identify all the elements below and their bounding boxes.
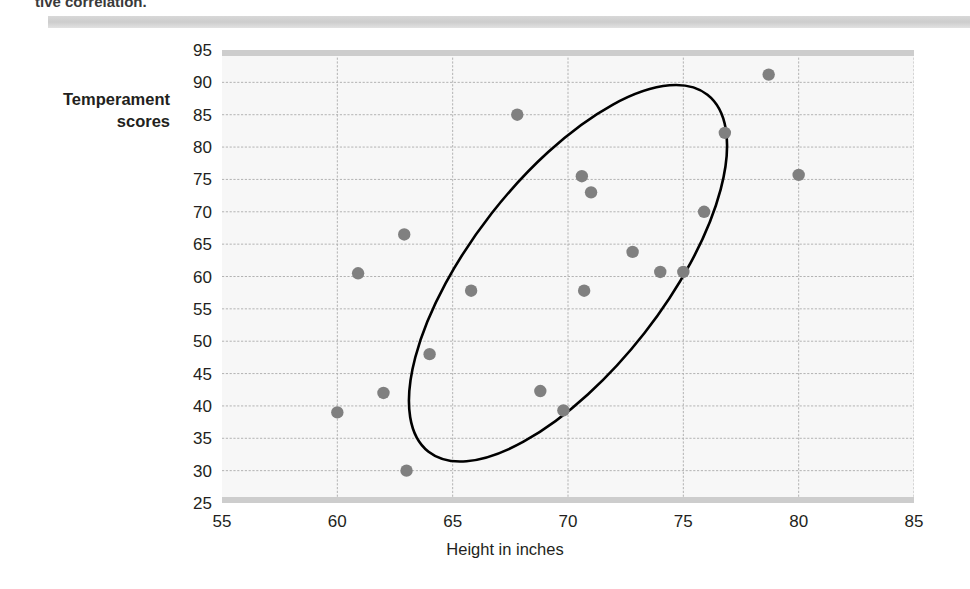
data-point [377,387,389,399]
x-axis-title: Height in inches [0,540,970,559]
y-tick-label: 90 [164,74,212,91]
axis-band-bottom [222,497,914,503]
y-axis-title: Temperament scores [10,88,170,132]
y-tick-label: 80 [164,139,212,156]
data-point [585,186,597,198]
x-tick-label: 80 [769,513,829,530]
x-tick-label: 85 [884,513,944,530]
y-tick-label: 70 [164,204,212,221]
y-tick-label: 85 [164,107,212,124]
data-point [792,169,804,181]
axis-band-top [222,50,914,56]
y-tick-label: 65 [164,236,212,253]
plot-canvas [222,50,914,503]
data-point [331,406,343,418]
data-point [762,68,774,80]
x-tick-label: 60 [307,513,367,530]
data-point [698,206,710,218]
header-rule-band [48,16,970,28]
y-axis-title-line-1: Temperament [10,88,170,110]
x-axis-title-text: Height in inches [406,540,563,558]
x-tick-label: 65 [423,513,483,530]
data-point [534,385,546,397]
data-point [400,464,412,476]
data-point [719,127,731,139]
x-tick-label: 75 [653,513,713,530]
data-point [677,266,689,278]
y-tick-label: 55 [164,301,212,318]
y-tick-label: 40 [164,398,212,415]
data-point [423,348,435,360]
data-point [654,266,666,278]
y-axis-title-line-2: scores [10,110,170,132]
y-tick-label: 50 [164,333,212,350]
x-tick-label: 55 [192,513,252,530]
x-tick-label: 70 [538,513,598,530]
data-point [576,170,588,182]
y-tick-label: 60 [164,269,212,286]
data-point [398,228,410,240]
data-point [511,109,523,121]
data-point [465,285,477,297]
y-tick-label: 35 [164,430,212,447]
scatter-plot [222,50,914,503]
y-tick-label: 75 [164,171,212,188]
data-point [352,267,364,279]
data-point [578,285,590,297]
y-tick-label: 45 [164,366,212,383]
y-tick-label: 30 [164,463,212,480]
page-caption: tive correlation. [35,0,455,13]
data-point [557,404,569,416]
data-point [626,246,638,258]
y-tick-label: 25 [164,495,212,512]
caption-text: tive correlation. [35,0,455,13]
y-tick-label: 95 [164,42,212,59]
